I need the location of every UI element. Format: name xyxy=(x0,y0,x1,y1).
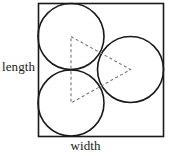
width-label: width xyxy=(0,139,171,153)
figure-canvas xyxy=(0,0,171,156)
length-label: length xyxy=(2,60,35,74)
geometry-figure: length width xyxy=(0,0,171,156)
